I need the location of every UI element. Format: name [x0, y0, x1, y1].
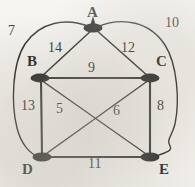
graph-figure: A B C D E 14 12 7 10 9 13 5 6 8 11 — [0, 0, 195, 187]
vertex-group — [31, 16, 160, 162]
edge-weight-b-e: 5 — [56, 102, 63, 116]
edge-weight-c-d: 6 — [113, 104, 120, 118]
edge-weight-a-d: 7 — [8, 24, 15, 38]
edge-weight-a-e: 10 — [165, 16, 179, 30]
vertex-d-dot — [33, 152, 52, 161]
vertex-label-a: A — [87, 5, 98, 20]
edge-b-d — [41, 80, 42, 155]
edge-weight-a-b: 14 — [48, 41, 62, 55]
vertex-c-dot — [141, 74, 160, 83]
edge-weight-b-c: 9 — [88, 61, 95, 75]
vertex-label-e: E — [159, 162, 169, 177]
edge-weight-d-e: 11 — [88, 157, 101, 171]
edge-weight-a-c: 12 — [121, 41, 135, 55]
vertex-label-c: C — [156, 54, 167, 69]
edge-weight-c-e: 8 — [157, 99, 164, 113]
vertex-label-d: D — [22, 162, 33, 177]
vertex-e-dot — [141, 152, 160, 161]
vertex-label-b: B — [27, 54, 37, 69]
vertex-b-dot — [31, 74, 50, 83]
edge-weight-b-d: 13 — [21, 99, 35, 113]
edge-group-curved — [13, 22, 177, 157]
